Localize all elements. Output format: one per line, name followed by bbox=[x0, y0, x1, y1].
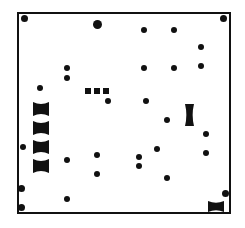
dot-marker bbox=[18, 204, 25, 211]
dot-marker bbox=[105, 98, 111, 104]
dot-marker bbox=[143, 98, 149, 104]
dot-marker bbox=[37, 85, 43, 91]
square-marker bbox=[85, 88, 91, 94]
dot-marker bbox=[171, 27, 177, 33]
dot-marker bbox=[154, 146, 160, 152]
dot-marker bbox=[203, 150, 209, 156]
diagram-frame bbox=[17, 12, 231, 214]
dot-marker bbox=[198, 44, 204, 50]
dot-marker bbox=[203, 131, 209, 137]
dot-marker bbox=[198, 63, 204, 69]
dot-marker bbox=[64, 196, 70, 202]
dot-marker bbox=[64, 157, 70, 163]
hourglass-block-icon bbox=[33, 121, 49, 135]
square-marker bbox=[94, 88, 100, 94]
dot-marker bbox=[171, 65, 177, 71]
dot-marker bbox=[141, 27, 147, 33]
dot-marker bbox=[18, 185, 25, 192]
hourglass-block-icon bbox=[185, 104, 194, 126]
hourglass-block-icon bbox=[33, 140, 49, 154]
dot-marker bbox=[164, 117, 170, 123]
hourglass-block-icon bbox=[33, 102, 49, 116]
hourglass-block-icon bbox=[208, 201, 224, 212]
dot-marker bbox=[64, 75, 70, 81]
dot-marker bbox=[136, 163, 142, 169]
dot-marker bbox=[20, 144, 26, 150]
dot-marker bbox=[141, 65, 147, 71]
dot-marker bbox=[94, 171, 100, 177]
dot-marker bbox=[21, 15, 28, 22]
dot-marker bbox=[64, 65, 70, 71]
dot-marker bbox=[220, 15, 227, 22]
dot-marker bbox=[93, 20, 102, 29]
dot-marker bbox=[94, 152, 100, 158]
dot-marker bbox=[136, 154, 142, 160]
dot-marker bbox=[222, 190, 229, 197]
hourglass-block-icon bbox=[33, 159, 49, 173]
dot-marker bbox=[164, 175, 170, 181]
square-marker bbox=[103, 88, 109, 94]
